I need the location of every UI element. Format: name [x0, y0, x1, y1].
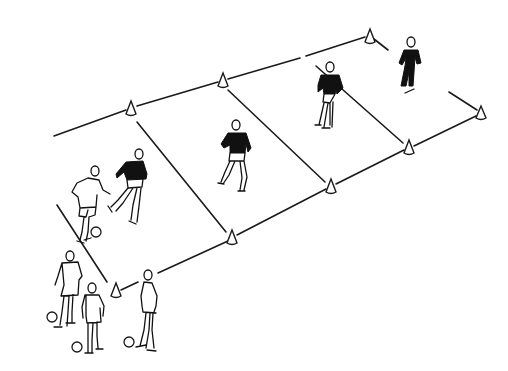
player-defender-zone-2	[218, 120, 251, 191]
zone-divider-1	[137, 122, 226, 232]
cone-marker	[111, 283, 121, 298]
soccer-drill-illustration: Pen-and-ink drawing of a soccer training…	[0, 0, 508, 371]
player-waiting-1	[54, 251, 82, 327]
cone-marker	[404, 140, 414, 155]
ball	[72, 342, 82, 352]
ball	[124, 337, 134, 347]
player-defender-zone-1	[108, 149, 147, 224]
player-waiting-3	[136, 270, 157, 351]
drill-diagram	[0, 0, 508, 371]
front-line-segment	[336, 150, 404, 184]
back-line-left	[54, 110, 126, 136]
back-line-segment	[137, 82, 218, 106]
front-line-segment	[237, 189, 326, 235]
right-end-line	[449, 92, 477, 110]
cone-marker	[126, 101, 136, 116]
front-line-segment	[414, 116, 476, 146]
player-defender-zone-3	[315, 62, 343, 128]
cone-marker	[365, 29, 375, 44]
ball	[91, 227, 101, 237]
cones	[111, 29, 486, 298]
back-line-end	[374, 39, 388, 50]
player-waiting-2	[82, 283, 104, 353]
back-line-segment	[306, 37, 365, 56]
ball	[47, 312, 57, 322]
cone-marker	[326, 179, 336, 194]
cone-marker	[227, 230, 237, 245]
front-line-segment	[121, 282, 138, 290]
cone-marker	[476, 106, 486, 120]
cone-marker	[218, 73, 228, 88]
back-line-segment	[228, 58, 300, 79]
player-defender-zone-4	[399, 37, 421, 93]
front-line-segment	[158, 241, 228, 273]
